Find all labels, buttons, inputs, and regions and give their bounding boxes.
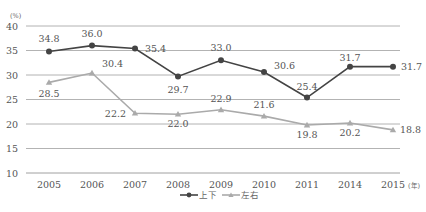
- data-point: [390, 64, 396, 70]
- x-tick-label: 2007: [123, 179, 147, 190]
- data-label: 22.0: [167, 118, 188, 129]
- data-label: 25.4: [296, 81, 317, 92]
- x-axis-ticks: 200520062007200820092010201120142015(年): [37, 179, 421, 190]
- x-tick-label: 2015: [381, 179, 405, 190]
- x-tick-label: 2005: [37, 179, 61, 190]
- data-label: 21.6: [253, 99, 274, 110]
- data-label: 22.9: [210, 93, 231, 104]
- data-point: [175, 73, 181, 79]
- data-label: 18.8: [400, 124, 421, 135]
- x-axis-unit: (年): [408, 181, 421, 190]
- x-tick-label: 2014: [338, 179, 362, 190]
- data-label: 34.8: [38, 33, 59, 44]
- y-tick-label: 40: [6, 21, 18, 32]
- data-point: [46, 48, 52, 54]
- y-tick-label: 25: [6, 94, 18, 105]
- data-label: 33.0: [210, 42, 231, 53]
- y-tick-label: 10: [6, 168, 18, 179]
- y-tick-label: 35: [6, 45, 18, 56]
- x-tick-label: 2010: [252, 179, 276, 190]
- data-label: 35.4: [145, 43, 166, 54]
- y-axis-unit: (%): [10, 12, 22, 20]
- data-label: 30.4: [102, 58, 123, 69]
- y-axis-ticks: 10152025303540: [6, 21, 18, 179]
- y-tick-label: 20: [6, 119, 18, 130]
- data-label: 31.7: [339, 52, 360, 63]
- data-label: 29.7: [167, 84, 188, 95]
- data-point: [347, 64, 353, 70]
- x-tick-label: 2006: [80, 179, 104, 190]
- x-tick-label: 2008: [166, 179, 190, 190]
- legend-marker-circle-icon: [187, 193, 192, 198]
- data-point: [304, 95, 310, 101]
- data-point: [89, 43, 95, 49]
- data-labels: 34.836.035.429.733.030.625.431.731.728.5…: [38, 28, 422, 140]
- legend-label: 上下: [199, 190, 217, 200]
- data-point: [218, 57, 224, 63]
- data-label: 22.2: [105, 108, 126, 119]
- data-point: [132, 46, 138, 52]
- line-chart: 10152025303540 2005200620072008200920102…: [0, 0, 426, 212]
- legend: 上下左右: [180, 190, 259, 200]
- x-tick-label: 2011: [295, 179, 319, 190]
- data-label: 28.5: [38, 88, 59, 99]
- data-point: [89, 70, 95, 76]
- data-label: 30.6: [274, 60, 295, 71]
- data-point: [261, 69, 267, 75]
- data-label: 31.7: [401, 61, 422, 72]
- data-label: 19.8: [296, 129, 317, 140]
- x-tick-label: 2009: [209, 179, 233, 190]
- legend-item-horizontal: 左右: [222, 190, 259, 200]
- y-tick-label: 30: [6, 70, 18, 81]
- data-label: 20.2: [339, 127, 360, 138]
- legend-item-vertical: 上下: [180, 190, 217, 200]
- legend-label: 左右: [241, 190, 259, 200]
- data-label: 36.0: [81, 28, 102, 39]
- y-tick-label: 15: [6, 143, 18, 154]
